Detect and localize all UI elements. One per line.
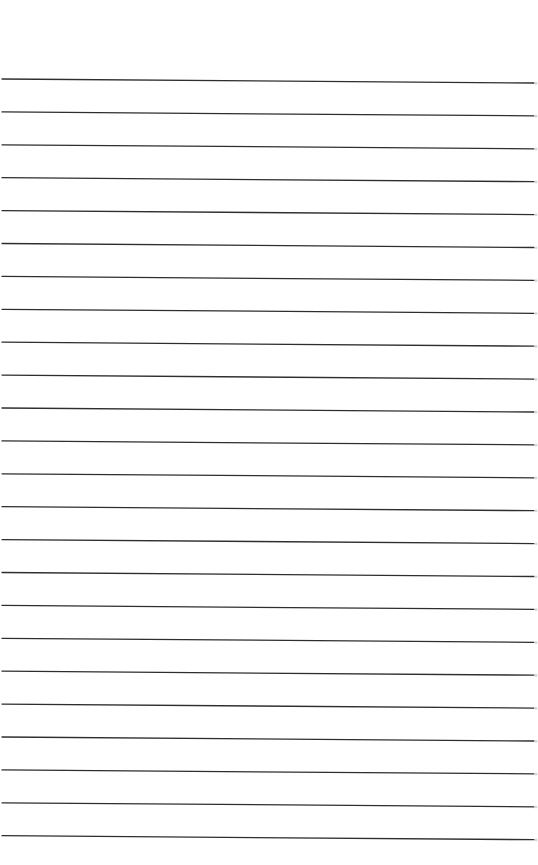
line-end-mark	[535, 148, 538, 151]
ruled-line	[2, 605, 534, 609]
line-end-mark	[535, 378, 538, 381]
line-end-mark	[535, 444, 538, 447]
line-end-mark	[535, 411, 538, 414]
line-end-mark	[535, 575, 538, 578]
line-end-mark	[535, 279, 538, 282]
line-end-mark	[535, 312, 538, 315]
ruled-line	[2, 309, 534, 313]
line-end-mark	[535, 181, 538, 184]
ruled-line	[2, 408, 534, 412]
line-end-mark	[535, 115, 538, 118]
line-end-mark	[535, 674, 538, 677]
ruled-lines	[0, 0, 538, 865]
line-end-mark	[535, 707, 538, 710]
line-end-mark	[535, 345, 538, 348]
ruled-line	[2, 770, 534, 774]
ruled-line	[2, 441, 534, 445]
ruled-line	[2, 342, 534, 346]
ruled-line	[2, 803, 534, 807]
ruled-line	[2, 474, 534, 478]
line-end-mark	[535, 806, 538, 809]
ruled-line	[2, 244, 534, 248]
ruled-line	[2, 540, 534, 544]
line-end-mark	[535, 477, 538, 480]
ruled-line	[2, 178, 534, 182]
ruled-line	[2, 507, 534, 511]
ruled-line	[2, 112, 534, 116]
ruled-line	[2, 836, 534, 840]
ruled-line	[2, 276, 534, 280]
ruled-line	[2, 671, 534, 675]
ruled-line	[2, 737, 534, 741]
line-end-mark	[535, 82, 538, 85]
ruled-line	[2, 573, 534, 577]
line-end-mark	[535, 543, 538, 546]
line-end-mark	[535, 608, 538, 611]
ruled-line	[2, 375, 534, 379]
line-end-mark	[535, 839, 538, 842]
ruled-line	[2, 704, 534, 708]
ruled-paper-page	[0, 0, 538, 865]
line-end-mark	[535, 246, 538, 249]
line-end-mark	[535, 641, 538, 644]
ruled-line	[2, 638, 534, 642]
line-end-mark	[535, 214, 538, 217]
line-end-mark	[535, 773, 538, 776]
line-end-mark	[535, 740, 538, 743]
ruled-line	[2, 79, 534, 83]
ruled-line	[2, 145, 534, 149]
ruled-line	[2, 211, 534, 215]
line-end-mark	[535, 510, 538, 513]
